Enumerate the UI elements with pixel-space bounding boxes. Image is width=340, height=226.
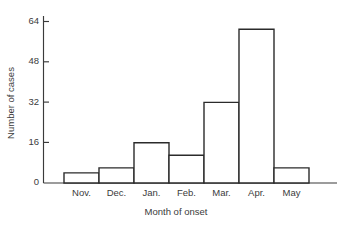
x-tick-label-may: May <box>283 187 301 198</box>
y-tick-label-32: 32 <box>28 96 39 107</box>
bar-jan[interactable] <box>134 143 169 183</box>
x-tick-label-apr: Apr. <box>248 187 265 198</box>
bar-may[interactable] <box>274 168 309 183</box>
y-tick-label-0: 0 <box>34 176 39 187</box>
bar-dec[interactable] <box>99 168 134 183</box>
x-tick-label-jan: Jan. <box>143 187 161 198</box>
y-tick-label-64: 64 <box>28 15 39 26</box>
bar-feb[interactable] <box>169 155 204 183</box>
y-axis-title: Number of cases <box>5 67 16 139</box>
x-tick-label-mar: Mar. <box>212 187 230 198</box>
x-tick-label-dec: Dec. <box>107 187 127 198</box>
bar-mar[interactable] <box>204 102 239 183</box>
y-tick-label-48: 48 <box>28 55 39 66</box>
x-tick-label-nov: Nov. <box>72 187 91 198</box>
y-tick-label-16: 16 <box>28 136 39 147</box>
y-tick-0: 0 <box>34 176 39 187</box>
bar-apr[interactable] <box>239 29 274 183</box>
x-axis-title: Month of onset <box>145 206 208 217</box>
bar-nov[interactable] <box>64 173 99 183</box>
chart-canvas: Number of cases 64 48 32 16 0 <box>0 0 340 226</box>
histogram-chart: Number of cases 64 48 32 16 0 <box>0 0 340 226</box>
x-tick-label-feb: Feb. <box>177 187 196 198</box>
